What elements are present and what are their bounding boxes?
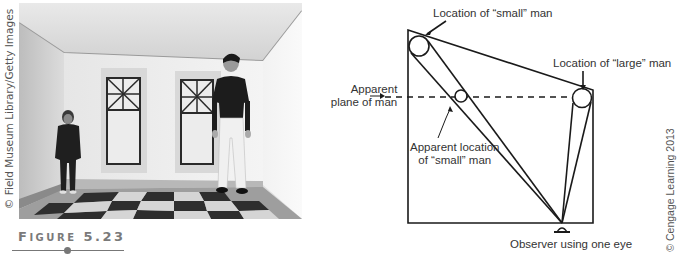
label-apparent-small-line2: of “small” man — [410, 154, 500, 167]
large-man-circle — [573, 89, 592, 108]
apparent-small-man-circle — [455, 90, 467, 102]
ames-room-diagram — [0, 0, 689, 256]
label-small-man-location: Location of “small” man — [433, 7, 553, 20]
label-apparent-small-line1: Apparent location — [410, 141, 500, 154]
label-apparent-small-man: Apparent location of “small” man — [410, 141, 500, 167]
label-apparent-plane-line2: plane of man — [320, 96, 408, 109]
diagram-credit-text: © Cengage Learning 2013 — [664, 128, 676, 251]
label-observer: Observer using one eye — [510, 238, 632, 251]
eye-icon — [554, 228, 570, 232]
label-large-man-location: Location of “large” man — [553, 57, 671, 70]
small-man-circle — [409, 36, 429, 56]
label-apparent-plane: Apparent plane of man — [340, 83, 408, 109]
diagram-credit: © Cengage Learning 2013 — [660, 130, 680, 250]
label-apparent-plane-line1: Apparent — [340, 83, 408, 96]
